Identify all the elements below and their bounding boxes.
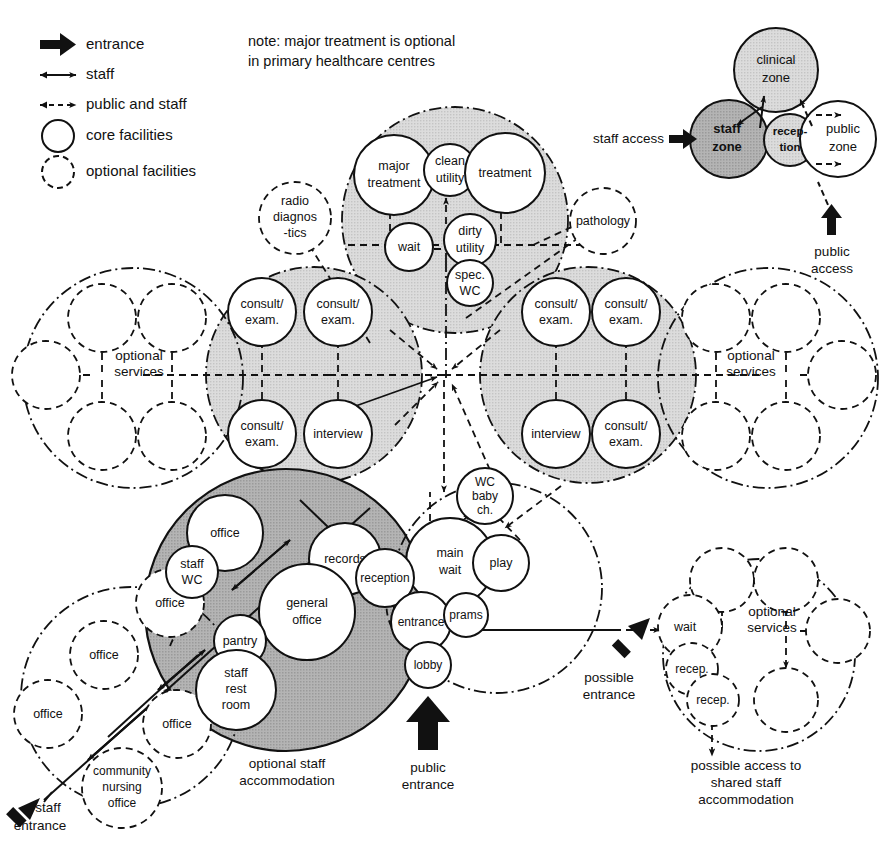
node-general-office-line-1: general xyxy=(286,596,328,610)
optional-services-left-label-2: services xyxy=(114,364,164,379)
optional-circle xyxy=(68,402,136,470)
node-consult-exam-l1-line-2: exam. xyxy=(245,313,279,327)
node-staff-rest-room-line-3: room xyxy=(222,698,250,712)
optional-circle xyxy=(754,548,818,612)
node-consult-exam-r2-line-1: consult/ xyxy=(604,297,648,311)
optional-circle xyxy=(68,284,136,352)
optional-circle xyxy=(682,402,750,470)
possible-access-label-1: possible access to xyxy=(691,758,801,773)
node-clean-utility-line-2: utility xyxy=(436,171,465,185)
possible-entrance-label-1: possible xyxy=(584,670,634,685)
node-major-treatment-line-1: major xyxy=(378,159,409,173)
optional-circle xyxy=(754,668,818,732)
node-interview-left-label: interview xyxy=(313,427,363,441)
legend-core-circle-icon xyxy=(42,120,74,152)
node-recep-1-label: recep. xyxy=(675,662,708,676)
public-entrance-label-1: public xyxy=(410,760,446,775)
node-treatment-label: treatment xyxy=(479,166,532,180)
node-radio-diagnostics-line-1: radio xyxy=(281,194,309,208)
optional-services-right-label-1: optional xyxy=(727,348,774,363)
node-radio-diagnostics-line-2: diagnos xyxy=(273,210,317,224)
node-pathology-label: pathology xyxy=(576,214,631,228)
node-office-b-label: office xyxy=(33,707,63,721)
node-wc-baby-ch-line-3: ch. xyxy=(477,503,493,517)
legend-label-staff: staff xyxy=(86,65,115,82)
node-consult-exam-r3-line-1: consult/ xyxy=(604,419,648,433)
node-wait-treatment-label: wait xyxy=(397,240,421,254)
node-staff-wc xyxy=(166,546,218,598)
legend-optional-circle-icon xyxy=(42,156,74,188)
legend-label-optional: optional facilities xyxy=(86,162,196,179)
public-entrance-label-2: entrance xyxy=(402,777,455,792)
node-staff-wc-line-1: staff xyxy=(180,557,204,571)
node-interview-right-label: interview xyxy=(531,427,581,441)
note-line-1: note: major treatment is optional xyxy=(248,33,455,49)
node-community-nursing-line-1: community xyxy=(93,764,151,778)
possible-access-label-3: accommodation xyxy=(698,792,793,807)
node-general-office xyxy=(259,564,355,660)
zone-reception-label-2: tion xyxy=(779,141,800,153)
healthcare-bubble-diagram: entrance staff public and staff core fac… xyxy=(0,0,882,841)
node-consult-exam-r1-line-2: exam. xyxy=(539,313,573,327)
node-office-overlap-label: office xyxy=(155,596,185,610)
possible-access-label-2: shared staff xyxy=(711,775,782,790)
node-reception-label: reception xyxy=(360,571,409,585)
zone-staff-label-2: zone xyxy=(712,139,742,154)
optional-circle xyxy=(808,341,876,409)
optional-staff-accommodation-label-2: accommodation xyxy=(239,773,334,788)
node-pantry-label: pantry xyxy=(223,634,258,648)
node-consult-exam-r2 xyxy=(592,278,660,346)
optional-services-left-label-1: optional xyxy=(115,348,162,363)
optional-circle xyxy=(138,402,206,470)
node-lobby-label: lobby xyxy=(414,658,443,672)
zone-clinical-label-1: clinical xyxy=(756,52,795,67)
node-staff-rest-room-line-1: staff xyxy=(224,666,248,680)
node-wc-baby-ch-line-1: WC xyxy=(475,475,495,489)
node-consult-exam-r3-line-2: exam. xyxy=(609,435,643,449)
node-consult-exam-l3 xyxy=(228,400,296,468)
node-dirty-utility xyxy=(444,214,496,266)
legend-label-core: core facilities xyxy=(86,126,173,143)
node-consult-exam-l1 xyxy=(228,278,296,346)
node-play-label: play xyxy=(490,556,514,570)
zone-reception-label-1: recep- xyxy=(773,125,808,137)
legend-label-public-and-staff: public and staff xyxy=(86,95,187,112)
node-community-nursing-line-2: nursing xyxy=(102,780,141,794)
node-major-treatment-line-2: treatment xyxy=(368,176,421,190)
node-consult-exam-l2-line-1: consult/ xyxy=(316,297,360,311)
zone-clinical-label-2: zone xyxy=(762,70,790,85)
node-main-wait-line-2: wait xyxy=(438,563,462,577)
zone-public-label-1: public xyxy=(826,121,860,136)
zone-public-label-2: zone xyxy=(829,139,857,154)
node-spec-wc-line-2: WC xyxy=(460,284,481,298)
legend-label-entrance: entrance xyxy=(86,35,144,52)
node-consult-exam-l1-line-1: consult/ xyxy=(240,297,284,311)
node-spec-wc xyxy=(447,260,493,306)
node-consult-exam-r2-line-2: exam. xyxy=(609,313,643,327)
node-community-nursing-line-3: office xyxy=(108,796,137,810)
diagram-canvas: entrance staff public and staff core fac… xyxy=(0,0,882,841)
optional-services-right-label-2: services xyxy=(726,364,776,379)
optional-circle xyxy=(682,284,750,352)
node-consult-exam-l3-line-1: consult/ xyxy=(240,419,284,433)
node-consult-exam-l2-line-2: exam. xyxy=(321,313,355,327)
node-consult-exam-r3 xyxy=(592,400,660,468)
node-office-top-label: office xyxy=(210,526,240,540)
node-prams-label: prams xyxy=(449,608,482,622)
node-office-c-label: office xyxy=(162,717,192,731)
node-staff-rest-room-line-2: rest xyxy=(226,682,247,696)
node-dirty-utility-line-1: dirty xyxy=(458,224,482,238)
node-spec-wc-line-1: spec. xyxy=(455,268,485,282)
node-recep-2-label: recep. xyxy=(696,693,729,707)
node-staff-wc-line-2: WC xyxy=(182,573,203,587)
node-major-treatment xyxy=(354,135,434,215)
node-radio-diagnostics-line-3: -tics xyxy=(284,226,307,240)
node-consult-exam-r1 xyxy=(522,278,590,346)
node-wc-baby-ch-line-2: baby xyxy=(472,489,498,503)
node-consult-exam-l3-line-2: exam. xyxy=(245,435,279,449)
optional-circle xyxy=(138,284,206,352)
node-office-a-label: office xyxy=(89,648,119,662)
optional-circle xyxy=(752,402,820,470)
staff-entrance-label-2: entrance xyxy=(14,818,67,833)
node-wait-branch-label: wait xyxy=(673,620,697,634)
